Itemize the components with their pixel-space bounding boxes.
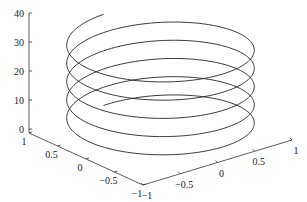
y-tick-label: −0.5 <box>175 179 193 190</box>
z-axis: 010203040 <box>14 8 32 135</box>
y-tick-label: 0.5 <box>253 156 266 167</box>
z-tick-label: 20 <box>14 66 24 77</box>
y-tick-label: 1 <box>294 145 299 156</box>
tick-mark <box>29 132 32 133</box>
z-tick-label: 10 <box>14 95 24 106</box>
tick-mark <box>115 171 118 172</box>
x-tick-label: 0 <box>78 162 83 173</box>
tick-mark <box>216 161 218 163</box>
helix-3d-plot: 010203040 10.50−0.5−1 −1−0.500.51 <box>0 0 307 202</box>
x-axis: 10.50−0.5−1 <box>22 132 147 199</box>
y-tick-label: −1 <box>142 190 153 201</box>
tick-mark <box>86 158 89 159</box>
tick-mark <box>58 145 61 146</box>
x-tick-label: −0.5 <box>99 175 117 186</box>
tick-mark <box>290 138 292 140</box>
x-tick-label: 1 <box>22 136 27 147</box>
z-tick-label: 0 <box>19 124 24 135</box>
z-tick-label: 40 <box>14 8 24 19</box>
y-tick-label: 0 <box>219 168 224 179</box>
x-tick-label: 0.5 <box>45 149 58 160</box>
z-tick-label: 30 <box>14 37 24 48</box>
tick-mark <box>253 149 255 151</box>
tick-mark <box>178 172 180 174</box>
helix-line <box>67 14 255 154</box>
